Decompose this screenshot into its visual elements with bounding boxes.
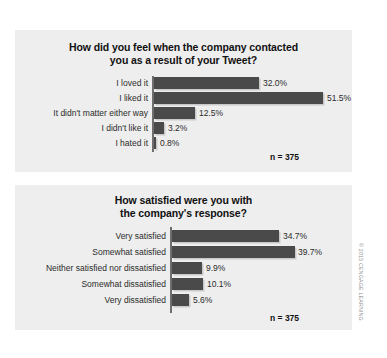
- value-label: 9.9%: [206, 262, 225, 275]
- plot-area-satisfaction: Very satisfied 34.7% Somewhat satisfied …: [15, 227, 352, 313]
- bar-feeling-2: [154, 107, 195, 119]
- chart-title-satisfaction: How satisfied were you with the company'…: [15, 185, 352, 220]
- sample-size-note: n = 375: [270, 313, 299, 323]
- bar-row: I loved it 32.0%: [15, 76, 352, 91]
- chart-title-line-2: you as a result of your Tweet?: [110, 54, 257, 66]
- value-label: 0.8%: [160, 137, 179, 150]
- category-label: Somewhat satisfied: [15, 246, 166, 259]
- chart-title-line-1: How satisfied were you with: [115, 194, 252, 206]
- bar-feeling-3: [154, 122, 165, 134]
- category-label: Very satisfied: [15, 230, 166, 243]
- category-label: I liked it: [15, 92, 148, 105]
- bar-row: Neither satisfied nor dissatisfied 9.9%: [15, 261, 352, 276]
- value-label: 51.5%: [327, 92, 351, 105]
- bar-satisfaction-1: [172, 246, 295, 258]
- chart-title-line-1: How did you feel when the company contac…: [69, 41, 298, 53]
- figure-container: How did you feel when the company contac…: [0, 0, 387, 358]
- category-label: I didn't like it: [15, 122, 148, 135]
- category-label: I loved it: [15, 77, 148, 90]
- bar-row: I liked it 51.5%: [15, 91, 352, 106]
- category-label: Somewhat dissatisfied: [15, 278, 166, 291]
- value-label: 39.7%: [298, 246, 322, 259]
- bar-satisfaction-4: [172, 294, 189, 306]
- bar-row: Very dissatisfied 5.6%: [15, 293, 352, 308]
- bar-row: I didn't like it 3.2%: [15, 121, 352, 136]
- plot-area-feeling: I loved it 32.0% I liked it 51.5% It did…: [15, 76, 352, 152]
- bar-row: Somewhat dissatisfied 10.1%: [15, 277, 352, 292]
- bar-satisfaction-3: [172, 278, 203, 290]
- value-label: 12.5%: [199, 107, 223, 120]
- category-label: I hated it: [15, 137, 148, 150]
- value-label: 32.0%: [263, 77, 287, 90]
- bar-row: It didn't matter either way 12.5%: [15, 106, 352, 121]
- bar-satisfaction-2: [172, 262, 203, 274]
- value-label: 34.7%: [283, 230, 307, 243]
- category-label: It didn't matter either way: [15, 107, 148, 120]
- chart-panel-feeling: How did you feel when the company contac…: [15, 30, 352, 172]
- bar-row: Very satisfied 34.7%: [15, 229, 352, 244]
- copyright-notice: © 2015 CENGAGE LEARNING: [358, 243, 364, 321]
- value-label: 10.1%: [207, 278, 231, 291]
- category-label: Neither satisfied nor dissatisfied: [15, 262, 166, 275]
- chart-panel-satisfaction: How satisfied were you with the company'…: [15, 185, 352, 330]
- chart-title-line-2: the company's response?: [120, 207, 247, 219]
- category-label: Very dissatisfied: [15, 294, 166, 307]
- bar-row: Somewhat satisfied 39.7%: [15, 245, 352, 260]
- bar-feeling-4: [154, 137, 157, 149]
- value-label: 3.2%: [168, 122, 187, 135]
- bar-feeling-1: [154, 92, 324, 104]
- sample-size-note: n = 375: [270, 152, 299, 162]
- bar-feeling-0: [154, 77, 260, 89]
- value-label: 5.6%: [193, 294, 212, 307]
- bar-row: I hated it 0.8%: [15, 136, 352, 151]
- bar-satisfaction-0: [172, 230, 280, 242]
- chart-title-feeling: How did you feel when the company contac…: [15, 30, 352, 67]
